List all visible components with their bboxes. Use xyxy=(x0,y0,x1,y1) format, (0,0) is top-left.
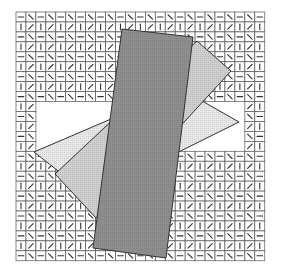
grid-cell xyxy=(106,42,116,52)
grid-cell xyxy=(235,251,245,261)
grid-cell xyxy=(76,251,86,261)
grid-cell xyxy=(175,211,185,221)
grid-cell xyxy=(195,221,205,231)
grid-cell xyxy=(235,42,245,52)
grid-cell xyxy=(195,231,205,241)
grid-cell xyxy=(195,171,205,181)
grid-cell xyxy=(235,191,245,201)
grid-cell xyxy=(26,161,36,171)
grid-cell xyxy=(235,221,245,231)
grid-cell xyxy=(195,161,205,171)
grid-cell xyxy=(255,92,265,102)
grid-cell xyxy=(255,191,265,201)
grid-cell xyxy=(16,151,26,161)
grid-cell xyxy=(26,221,36,231)
grid-cell xyxy=(66,42,76,52)
grid-cell xyxy=(116,12,126,22)
grid-cell xyxy=(255,161,265,171)
grid-cell xyxy=(255,72,265,82)
grid-cell xyxy=(255,181,265,191)
grid-cell xyxy=(96,42,106,52)
grid-cell xyxy=(16,52,26,62)
grid-cell xyxy=(225,211,235,221)
grid-cell xyxy=(235,72,245,82)
grid-cell xyxy=(185,221,195,231)
grid-cell xyxy=(215,251,225,261)
grid-cell xyxy=(66,32,76,42)
grid-cell xyxy=(235,241,245,251)
grid-cell xyxy=(245,82,255,92)
grid-cell xyxy=(36,52,46,62)
grid-cell xyxy=(76,32,86,42)
grid-cell xyxy=(185,22,195,32)
grid-cell xyxy=(96,251,106,261)
grid-cell xyxy=(16,42,26,52)
grid-cell xyxy=(46,231,56,241)
grid-cell xyxy=(46,12,56,22)
grid-cell xyxy=(215,211,225,221)
grid-cell xyxy=(36,181,46,191)
grid-cell xyxy=(195,201,205,211)
grid-cell xyxy=(26,171,36,181)
grid-cell xyxy=(66,231,76,241)
grid-cell xyxy=(86,32,96,42)
grid-cell xyxy=(46,82,56,92)
grid-cell xyxy=(255,241,265,251)
grid-cell xyxy=(36,82,46,92)
grid-cell xyxy=(225,92,235,102)
grid-cell xyxy=(245,211,255,221)
grid-cell xyxy=(86,22,96,32)
grid-cell xyxy=(215,22,225,32)
grid-cell xyxy=(26,251,36,261)
grid-cell xyxy=(86,251,96,261)
grid-cell xyxy=(26,131,36,141)
grid-cell xyxy=(235,211,245,221)
grid-cell xyxy=(245,92,255,102)
grid-cell xyxy=(16,32,26,42)
grid-cell xyxy=(235,82,245,92)
grid-cell xyxy=(255,42,265,52)
grid-cell xyxy=(76,221,86,231)
grid-cell xyxy=(16,12,26,22)
grid-cell xyxy=(245,62,255,72)
grid-cell xyxy=(175,251,185,261)
grid-cell xyxy=(255,82,265,92)
grid-cell xyxy=(96,12,106,22)
grid-cell xyxy=(66,221,76,231)
grid-cell xyxy=(205,231,215,241)
grid-cell xyxy=(36,22,46,32)
grid-cell xyxy=(175,201,185,211)
grid-cell xyxy=(215,161,225,171)
grid-cell xyxy=(225,12,235,22)
grid-cell xyxy=(225,161,235,171)
grid-cell xyxy=(225,151,235,161)
grid-cell xyxy=(66,251,76,261)
grid-cell xyxy=(175,181,185,191)
grid-cell xyxy=(185,161,195,171)
grid-cell xyxy=(56,211,66,221)
grid-cell xyxy=(46,251,56,261)
grid-cell xyxy=(56,32,66,42)
grid-cell xyxy=(245,102,255,112)
grid-cell xyxy=(16,112,26,122)
grid-cell xyxy=(16,211,26,221)
grid-cell xyxy=(245,12,255,22)
grid-cell xyxy=(106,12,116,22)
grid-cell xyxy=(16,22,26,32)
grid-cell xyxy=(225,241,235,251)
grid-cell xyxy=(175,241,185,251)
grid-cell xyxy=(86,92,96,102)
grid-cell xyxy=(36,171,46,181)
grid-cell xyxy=(245,251,255,261)
grid-cell xyxy=(16,131,26,141)
grid-cell xyxy=(215,151,225,161)
grid-cell xyxy=(235,52,245,62)
grid-cell xyxy=(255,151,265,161)
grid-cell xyxy=(26,201,36,211)
grid-cell xyxy=(36,161,46,171)
grid-cell xyxy=(225,181,235,191)
grid-cell xyxy=(16,141,26,151)
grid-cell xyxy=(26,231,36,241)
grid-cell xyxy=(56,251,66,261)
grid-cell xyxy=(76,72,86,82)
